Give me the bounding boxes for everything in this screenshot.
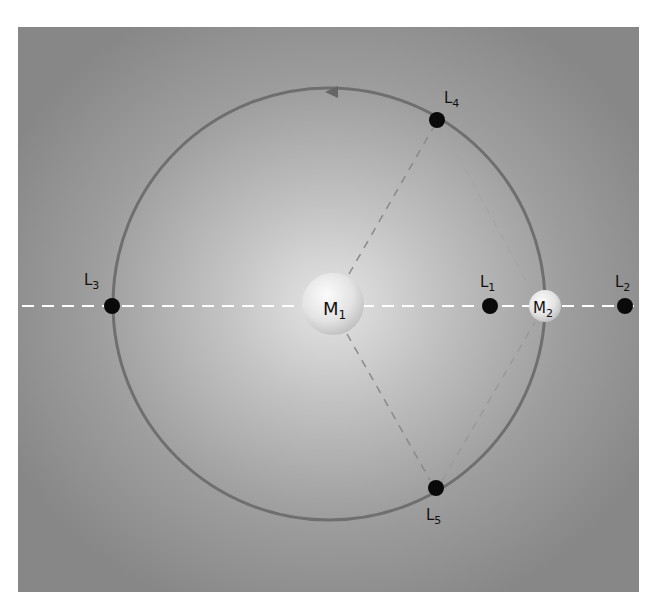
svg-text:L1: L1 [480,273,495,294]
lagrange-diagram: M1 M2 L1 L2 L3 L4 L5 [0,0,661,596]
point-l2: L2 [615,273,633,314]
svg-text:L5: L5 [426,506,441,527]
svg-text:L3: L3 [84,271,99,292]
guide-line-m1-l4 [349,128,433,274]
point-l4: L4 [429,89,459,128]
point-l1: L1 [480,273,498,314]
guide-line-m1-l5 [347,334,430,480]
body-m1: M1 [302,273,364,335]
svg-text:L2: L2 [615,273,630,294]
point-l5: L5 [426,480,444,527]
guide-line-l4-m2 [443,128,531,290]
svg-text:L4: L4 [444,89,459,110]
body-m2: M2 [529,290,561,322]
